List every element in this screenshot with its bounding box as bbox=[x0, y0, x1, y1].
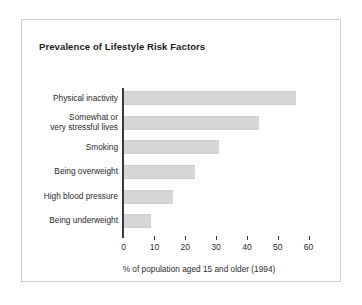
bar-fill bbox=[124, 116, 260, 130]
bar-row: Physical inactivity bbox=[22, 86, 340, 111]
bar-series: Physical inactivitySomewhat or very stre… bbox=[22, 86, 340, 234]
bar-row: High blood pressure bbox=[22, 184, 340, 209]
x-axis-tick-label: 60 bbox=[297, 242, 321, 252]
chart-frame: Prevalence of Lifestyle Risk Factors Phy… bbox=[21, 19, 341, 282]
bar-category-label: Being underweight bbox=[0, 216, 118, 226]
x-axis-tick-label: 20 bbox=[173, 242, 197, 252]
bar-track bbox=[124, 91, 309, 105]
bar-category-label: Physical inactivity bbox=[0, 94, 118, 104]
bar-category-label: High blood pressure bbox=[0, 192, 118, 202]
bar-track bbox=[124, 140, 309, 154]
bar-row: Being overweight bbox=[22, 160, 340, 185]
bar-fill bbox=[124, 165, 195, 179]
x-axis-tick bbox=[154, 236, 155, 240]
x-axis-tick-label: 30 bbox=[204, 242, 228, 252]
bar-category-label: Being overweight bbox=[0, 167, 118, 177]
x-axis-tick-label: 10 bbox=[142, 242, 166, 252]
bar-row: Smoking bbox=[22, 135, 340, 160]
bar-track bbox=[124, 190, 309, 204]
x-axis-tick-label: 40 bbox=[235, 242, 259, 252]
bar-fill bbox=[124, 91, 297, 105]
x-axis-tick bbox=[185, 236, 186, 240]
x-axis-tick bbox=[309, 236, 310, 240]
bar-track bbox=[124, 116, 309, 130]
x-axis-caption-text: % of population aged 15 and older (1994) bbox=[123, 264, 276, 274]
x-axis-tick bbox=[278, 236, 279, 240]
bar-category-label: Somewhat or very stressful lives bbox=[0, 113, 118, 132]
x-axis-tick bbox=[247, 236, 248, 240]
bar-row: Being underweight bbox=[22, 209, 340, 234]
x-axis: 0102030405060 bbox=[22, 236, 340, 266]
x-axis-caption: % of population aged 15 and older (1994) bbox=[22, 264, 340, 274]
bar-fill bbox=[124, 214, 152, 228]
x-axis-tick bbox=[216, 236, 217, 240]
x-axis-tick-label: 50 bbox=[266, 242, 290, 252]
bar-fill bbox=[124, 140, 220, 154]
bar-track bbox=[124, 214, 309, 228]
bar-track bbox=[124, 165, 309, 179]
page-title: Prevalence of Lifestyle Risk Factors bbox=[39, 41, 205, 52]
bar-category-label: Smoking bbox=[0, 143, 118, 153]
x-axis-tick-label: 0 bbox=[112, 242, 136, 252]
bar-fill bbox=[124, 190, 173, 204]
bar-row: Somewhat or very stressful lives bbox=[22, 111, 340, 136]
plot-area: Physical inactivitySomewhat or very stre… bbox=[22, 86, 340, 241]
